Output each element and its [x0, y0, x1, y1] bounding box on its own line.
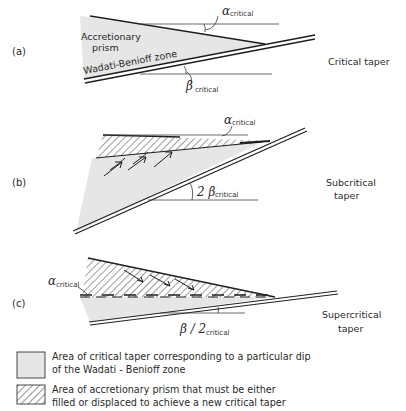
panel-b: (b) Subcritical taper α critical 2 β cri…: [12, 113, 376, 234]
svg-text:critical: critical: [195, 86, 218, 94]
svg-text:prism: prism: [92, 42, 119, 53]
svg-text:critical: critical: [230, 10, 253, 18]
alpha-leader: [222, 126, 232, 136]
beta-symbol: β / 2: [179, 322, 206, 336]
svg-text:critical: critical: [215, 191, 238, 199]
panel-c-label: (c): [12, 298, 25, 309]
beta-angle-arc: [184, 66, 186, 74]
legend-swatch-hatched: [17, 385, 45, 404]
panel-a-title: Critical taper: [328, 56, 390, 67]
prism-label: Accretionary: [81, 31, 141, 42]
svg-text:critical: critical: [56, 281, 79, 289]
beta-angle-arc: [218, 307, 219, 313]
alpha-angle-arc: [204, 24, 205, 32]
panel-a-label: (a): [12, 46, 26, 57]
alpha-leader: [206, 16, 218, 30]
legend-item-shaded: Area of critical taper corresponding to …: [52, 351, 311, 362]
beta-symbol: β: [185, 79, 193, 93]
svg-text:taper: taper: [338, 323, 363, 334]
beta-symbol: 2 β: [196, 185, 215, 199]
critical-taper-diagram: (a) Accretionary prism Wadati-Benioff zo…: [0, 0, 406, 411]
critical-taper-area: [80, 297, 275, 322]
legend-item-hatched: Area of accretionary prism that must be …: [52, 384, 276, 395]
svg-text:filled or displaced to achieve: filled or displaced to achieve a new cri…: [52, 397, 286, 408]
panel-c-title: Supercritical: [322, 309, 381, 320]
legend: Area of critical taper corresponding to …: [17, 351, 311, 408]
svg-text:of the Wadati - Benioff zone: of the Wadati - Benioff zone: [52, 364, 186, 375]
alpha-symbol: α: [224, 113, 232, 127]
panel-a: (a) Accretionary prism Wadati-Benioff zo…: [12, 4, 390, 94]
svg-text:critical: critical: [232, 119, 255, 127]
svg-text:taper: taper: [334, 190, 359, 201]
legend-swatch-shaded: [17, 352, 45, 378]
svg-text:critical: critical: [206, 329, 229, 337]
panel-b-title: Subcritical: [326, 177, 376, 188]
beta-angle-arc: [190, 183, 193, 200]
alpha-symbol: α: [222, 4, 230, 18]
alpha-symbol: α: [48, 274, 56, 288]
panel-c: (c) Supercritical taper α critical β / 2…: [12, 258, 381, 337]
panel-b-label: (b): [12, 177, 26, 188]
